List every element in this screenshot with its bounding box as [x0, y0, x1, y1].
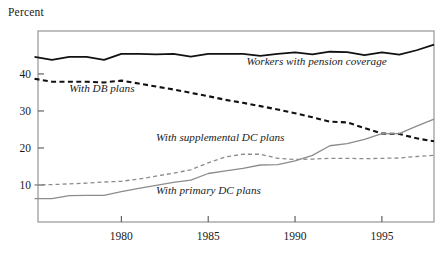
series-label-1: With DB plans — [69, 82, 135, 94]
chart-plot-area: 10203040 1980198519901995 Workers with p… — [0, 0, 447, 255]
x-tick-label: 1990 — [284, 230, 307, 242]
series-label-0: Workers with pension coverage — [246, 55, 386, 67]
y-tick-label: 30 — [20, 105, 32, 117]
y-tick-label: 40 — [20, 68, 32, 80]
x-tick-label: 1985 — [197, 230, 220, 242]
y-tick-label: 10 — [20, 179, 32, 191]
x-tick-label: 1995 — [370, 230, 393, 242]
y-tick-label: 20 — [20, 142, 32, 154]
pension-coverage-line-chart: Percent 10203040 1980198519901995 Worker… — [0, 0, 447, 255]
series-label-3: With primary DC plans — [156, 184, 261, 196]
series-label-2: With supplemental DC plans — [156, 131, 285, 143]
x-tick-label: 1980 — [110, 230, 133, 242]
